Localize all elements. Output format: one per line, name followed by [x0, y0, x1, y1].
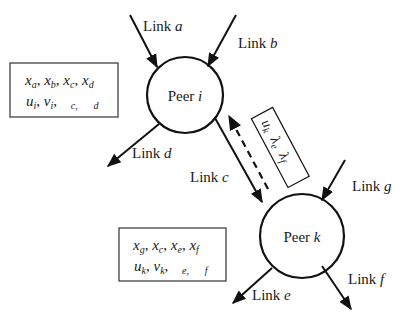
peer-k-node: Peer k	[260, 194, 344, 278]
peer-i-variables-box: xa, xb, xc, xd ui, vi, c, d	[10, 63, 118, 117]
svg-text:Link g: Link g	[352, 178, 392, 194]
svg-text:Link d: Link d	[132, 145, 172, 161]
svg-text:Link b: Link b	[238, 35, 278, 51]
link-b: Link b	[208, 15, 278, 66]
link-d: Link d	[108, 124, 172, 166]
svg-text:Peer i: Peer i	[168, 88, 203, 104]
svg-text:Link c: Link c	[190, 169, 229, 185]
peer-i-var: i	[198, 88, 202, 104]
svg-text:Link e: Link e	[252, 287, 291, 303]
peer-k-var: k	[314, 229, 321, 245]
svg-text:Link a: Link a	[143, 18, 183, 34]
peer-link-diagram: Peer i Peer k Link a Link b Link d Link …	[0, 0, 407, 323]
link-f: Link f	[322, 266, 386, 309]
peer-i-node: Peer i	[147, 57, 223, 133]
svg-text:Peer k: Peer k	[283, 229, 320, 245]
peer-i-prefix: Peer	[168, 88, 198, 104]
peer-k-prefix: Peer	[283, 229, 313, 245]
peer-k-variables-box: xg, xc, xe, xf uk, vk, e, f	[119, 228, 226, 281]
svg-text:Link f: Link f	[348, 271, 386, 287]
link-g: Link g	[322, 160, 392, 200]
